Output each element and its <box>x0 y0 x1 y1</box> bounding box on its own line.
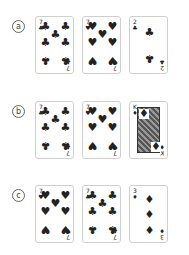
suit-pip-icon: ♥ <box>107 106 118 117</box>
suit-pip-icon: ♥ <box>107 21 118 32</box>
suit-pip-icon: ♣ <box>144 27 155 38</box>
card-seven-of-hearts: 7♥7♥♥♥♥♥♥♥♥ <box>82 16 121 74</box>
suit-pip-icon: ♥ <box>107 37 118 48</box>
suit-pip-icon: ♥ <box>87 140 98 151</box>
suit-pip-icon: ♣ <box>60 106 71 117</box>
diamond-icon: ♦ <box>139 109 149 119</box>
suit-pip-icon: ♥ <box>87 55 98 66</box>
suit-pip-icon: ♥ <box>87 37 98 48</box>
suit-pip-icon: ♣ <box>107 206 118 217</box>
card-index: 3♦ <box>159 228 165 240</box>
card-index: 2♣ <box>132 19 138 31</box>
suit-icon: ♣ <box>132 25 138 31</box>
suit-icon: ♦ <box>159 228 165 234</box>
diamond-icon: ♦ <box>151 142 161 152</box>
suit-pip-icon: ♥ <box>40 206 51 217</box>
suit-pip-icon: ♣ <box>60 55 71 66</box>
suit-icon: ♦ <box>132 194 138 200</box>
suit-pip-icon: ♣ <box>107 190 118 201</box>
suit-pip-icon: ♣ <box>60 37 71 48</box>
card-seven-of-clubs: 7♣7♣♣♣♣♣♣♣♣ <box>82 185 121 243</box>
suit-icon: ♣ <box>159 59 165 65</box>
suit-pip-icon: ♥ <box>107 140 118 151</box>
row-label: a <box>12 20 25 33</box>
suit-pip-icon: ♣ <box>87 224 98 235</box>
card-seven-of-hearts: 7♥7♥♥♥♥♥♥♥♥ <box>35 185 74 243</box>
row-b: b7♣7♣♣♣♣♣♣♣♣7♥7♥♥♥♥♥♥♥♥K♦K♦♦♦ <box>0 101 189 161</box>
card-king-of-diamonds: K♦K♦♦♦ <box>129 101 168 159</box>
card-three-of-diamonds: 3♦3♦♦♦♦ <box>129 185 168 243</box>
suit-pip-icon: ♥ <box>60 224 71 235</box>
card-index: 2♣ <box>159 59 165 71</box>
row-label: c <box>12 189 25 202</box>
suit-pip-icon: ♣ <box>107 224 118 235</box>
king-face-art: ♦♦ <box>137 107 160 153</box>
suit-pip-icon: ♣ <box>144 53 155 64</box>
suit-pip-icon: ♥ <box>60 206 71 217</box>
suit-pip-icon: ♣ <box>40 140 51 151</box>
suit-pip-icon: ♥ <box>107 122 118 133</box>
suit-pip-icon: ♣ <box>40 55 51 66</box>
card-seven-of-clubs: 7♣7♣♣♣♣♣♣♣♣ <box>35 101 74 159</box>
card-seven-of-hearts: 7♥7♥♥♥♥♥♥♥♥ <box>82 101 121 159</box>
suit-pip-icon: ♣ <box>60 140 71 151</box>
suit-pip-icon: ♥ <box>40 224 51 235</box>
card-seven-of-clubs: 7♣7♣♣♣♣♣♣♣♣ <box>35 16 74 74</box>
suit-pip-icon: ♥ <box>60 190 71 201</box>
suit-pip-icon: ♣ <box>40 37 51 48</box>
suit-pip-icon: ♥ <box>87 122 98 133</box>
suit-pip-icon: ♣ <box>60 122 71 133</box>
suit-pip-icon: ♦ <box>144 209 155 220</box>
suit-pip-icon: ♣ <box>60 21 71 32</box>
suit-pip-icon: ♥ <box>107 55 118 66</box>
suit-pip-icon: ♦ <box>144 224 155 235</box>
suit-pip-icon: ♦ <box>144 194 155 205</box>
row-label: b <box>12 105 25 118</box>
row-a: a7♣7♣♣♣♣♣♣♣♣7♥7♥♥♥♥♥♥♥♥2♣2♣♣♣ <box>0 16 189 76</box>
suit-pip-icon: ♣ <box>40 122 51 133</box>
row-c: c7♥7♥♥♥♥♥♥♥♥7♣7♣♣♣♣♣♣♣♣3♦3♦♦♦♦ <box>0 185 189 245</box>
suit-pip-icon: ♣ <box>87 206 98 217</box>
card-two-of-clubs: 2♣2♣♣♣ <box>129 16 168 74</box>
card-index: 3♦ <box>132 188 138 200</box>
